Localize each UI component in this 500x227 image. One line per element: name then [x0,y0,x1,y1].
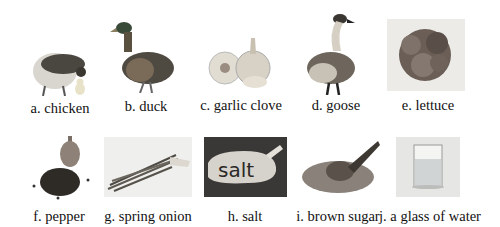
chicken-icon [25,26,95,96]
garlic-icon [207,36,279,90]
item-label-garlic-clove: c. garlic clove [200,97,282,113]
item-label-brown-sugar: i. brown sugar [296,208,379,224]
pepper-icon [30,136,90,200]
item-label-goose: d. goose [312,97,360,113]
spring-onion-icon [104,137,192,197]
item-label-glass-of-water: j. a glass of water [379,208,481,224]
item-label-lettuce: e. lettuce [402,97,454,113]
glass-of-water-icon [396,137,460,197]
brown-sugar-icon [298,137,380,197]
salt-icon: salt [204,137,287,197]
item-label-salt: h. salt [228,208,263,224]
salt-sign-text: salt [218,158,254,182]
duck-icon [108,18,183,93]
item-label-chicken: a. chicken [31,100,90,116]
item-label-duck: b. duck [125,98,168,114]
item-label-spring-onion: g. spring onion [104,208,191,224]
lettuce-icon [387,19,465,91]
item-label-pepper: f. pepper [33,208,85,224]
goose-icon [303,13,363,95]
